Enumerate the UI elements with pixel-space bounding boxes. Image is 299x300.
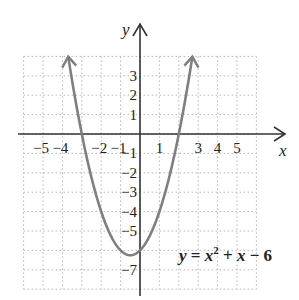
x-tick-label: −5	[33, 140, 49, 156]
y-axis-label: y	[120, 20, 130, 39]
y-tick-label: −2	[121, 165, 137, 181]
curve-arrowheads	[62, 57, 198, 68]
x-tick-label: −2	[91, 140, 107, 156]
x-axis-label: x	[278, 141, 287, 160]
x-tick-label: 4	[214, 140, 222, 156]
equation-label: y = x2 + x − 6	[177, 244, 272, 265]
y-tick-label: 3	[130, 68, 138, 84]
x-tick-label: 5	[233, 140, 241, 156]
y-tick-label: −4	[121, 204, 137, 220]
x-tick-label: −4	[52, 140, 68, 156]
y-tick-label: −5	[121, 223, 137, 239]
y-tick-label: 1	[130, 107, 138, 123]
parabola-graph: −5−4−2−11345321−1−2−3−4−5−7 x y y = x2 +…	[0, 0, 299, 300]
x-tick-label: 3	[194, 140, 202, 156]
y-tick-label: −1	[121, 145, 137, 161]
x-tick-label: 1	[156, 140, 164, 156]
y-tick-label: 2	[130, 87, 138, 103]
y-tick-label: −3	[121, 184, 137, 200]
y-tick-label: −7	[121, 262, 137, 278]
